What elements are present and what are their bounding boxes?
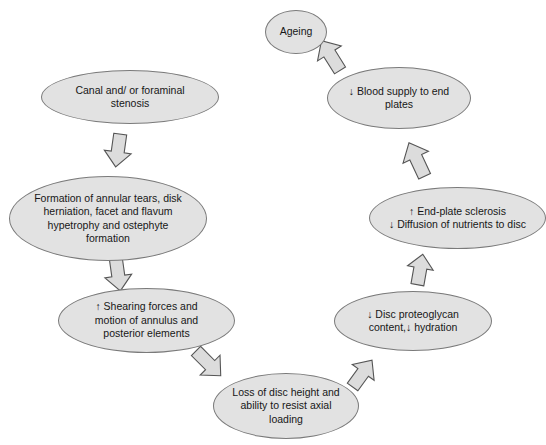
- node-ageing[interactable]: Ageing: [265, 10, 327, 54]
- node-shearing-forces-line2: motion of annulus and: [67, 314, 226, 327]
- node-end-plate-sclerosis-line2: ↓ Diffusion of nutrients to disc: [378, 218, 537, 231]
- node-end-plate-sclerosis-line1: ↑ End-plate sclerosis: [378, 205, 537, 218]
- node-disc-height-line1: Loss of disc height and: [222, 386, 350, 399]
- node-blood-supply-line2: plates: [336, 98, 462, 111]
- node-shearing-forces-line3: posterior elements: [67, 327, 226, 340]
- node-stenosis[interactable]: Canal and/ or foraminal stenosis: [41, 70, 219, 124]
- node-proteoglycan-line2: content,↓ hydration: [343, 321, 483, 334]
- node-blood-supply-label: ↓ Blood supply to end plates: [336, 85, 462, 112]
- node-annular-tears-line4: formation: [18, 232, 198, 245]
- node-shearing-forces-line1: ↑ Shearing forces and: [67, 300, 226, 313]
- node-proteoglycan-label: ↓ Disc proteoglycan content,↓ hydration: [343, 308, 483, 335]
- arrow-shearing-to-tears: [102, 256, 133, 292]
- node-annular-tears-line2: herniation, facet and flavum: [18, 205, 198, 218]
- node-shearing-forces[interactable]: ↑ Shearing forces and motion of annulus …: [58, 288, 235, 353]
- node-stenosis-label: Canal and/ or foraminal stenosis: [50, 84, 210, 111]
- node-proteoglycan[interactable]: ↓ Disc proteoglycan content,↓ hydration: [334, 291, 492, 351]
- node-blood-supply-line1: ↓ Blood supply to end: [336, 85, 462, 98]
- node-ageing-label: Ageing: [274, 25, 318, 38]
- node-annular-tears[interactable]: Formation of annular tears, disk herniat…: [9, 176, 207, 261]
- arrow-tears-to-stenosis: [102, 132, 133, 168]
- node-annular-tears-line1: Formation of annular tears, disk: [18, 192, 198, 205]
- node-disc-height-line2: ability to resist axial: [222, 399, 350, 412]
- node-annular-tears-line3: hypetrophy and ostephyte: [18, 219, 198, 232]
- node-disc-height[interactable]: Loss of disc height and ability to resis…: [213, 373, 359, 439]
- arrow-blood-to-sclerosis: [396, 137, 437, 182]
- arrow-sclerosis-to-proteoglycan: [405, 252, 436, 287]
- node-annular-tears-label: Formation of annular tears, disk herniat…: [18, 192, 198, 246]
- node-end-plate-sclerosis[interactable]: ↑ End-plate sclerosis ↓ Diffusion of nut…: [369, 187, 546, 249]
- node-shearing-forces-label: ↑ Shearing forces and motion of annulus …: [67, 300, 226, 340]
- node-stenosis-line2: stenosis: [50, 97, 210, 110]
- node-disc-height-label: Loss of disc height and ability to resis…: [222, 386, 350, 426]
- node-stenosis-line1: Canal and/ or foraminal: [50, 84, 210, 97]
- node-disc-height-line3: loading: [222, 413, 350, 426]
- node-blood-supply[interactable]: ↓ Blood supply to end plates: [327, 67, 471, 129]
- node-proteoglycan-line1: ↓ Disc proteoglycan: [343, 308, 483, 321]
- node-end-plate-sclerosis-label: ↑ End-plate sclerosis ↓ Diffusion of nut…: [378, 205, 537, 232]
- flowchart-canvas: Ageing ↓ Blood supply to end plates ↑ En…: [0, 0, 546, 445]
